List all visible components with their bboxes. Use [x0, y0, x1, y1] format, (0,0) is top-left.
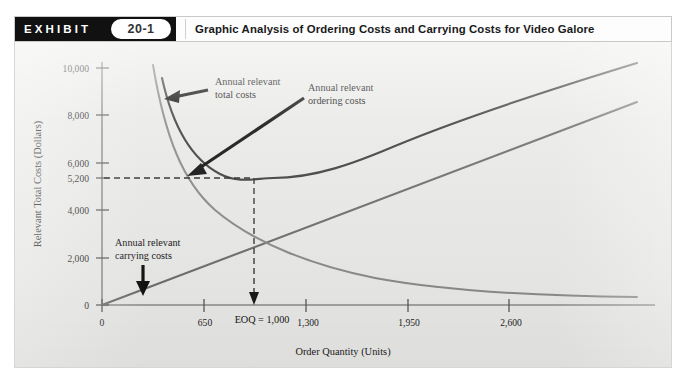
annotation-total-costs-line2: total costs	[215, 89, 256, 100]
y-tick-label-2000: 2,000	[67, 253, 89, 264]
y-axis-tick-labels: 10,000 8,000 6,000 5,200 4,000 2,000 0	[63, 63, 90, 311]
x-tick-label-1300: 1,300	[297, 317, 319, 328]
exhibit-label: EXHIBIT	[24, 23, 91, 35]
annotation-total-costs: Annual relevant total costs	[164, 76, 281, 103]
y-tick-label-10000: 10,000	[63, 63, 90, 74]
annotation-total-costs-line1: Annual relevant	[215, 76, 281, 87]
chart-axes	[102, 62, 655, 305]
exhibit-title: Graphic Analysis of Ordering Costs and C…	[195, 17, 594, 41]
annotation-ordering-costs-line2: ordering costs	[308, 95, 365, 106]
x-axis-title: Order Quantity (Units)	[295, 346, 390, 358]
exhibit-header: EXHIBIT 20-1 Graphic Analysis of Orderin…	[14, 16, 672, 42]
x-tick-label-0: 0	[100, 317, 105, 328]
x-tick-label-2600: 2,600	[500, 317, 522, 328]
annotation-ordering-costs-arrow-shaft	[198, 98, 304, 169]
annotation-ordering-costs-line1: Annual relevant	[308, 82, 374, 93]
carrying-costs-line	[102, 102, 637, 305]
annotation-carrying-costs-line1: Annual relevant	[115, 237, 181, 248]
x-tick-label-650: 650	[198, 317, 213, 328]
x-axis-tick-labels: 0 650 1,300 1,950 2,600	[100, 317, 522, 328]
exhibit-number: 20-1	[127, 22, 154, 36]
exhibit-number-pill: 20-1	[111, 19, 171, 39]
exhibit-page: EXHIBIT 20-1 Graphic Analysis of Orderin…	[0, 0, 684, 379]
eoq-arrowhead-icon	[249, 292, 259, 305]
header-divider	[185, 19, 186, 39]
eoq-chart: 10,000 8,000 6,000 5,200 4,000 2,000 0 0…	[15, 42, 671, 366]
y-axis-title: Relevant Total Costs (Dollars)	[32, 121, 44, 247]
y-tick-label-0: 0	[84, 300, 89, 311]
eoq-label: EOQ = 1,000	[235, 314, 290, 325]
y-tick-label-8000: 8,000	[67, 110, 89, 121]
y-tick-label-6000: 6,000	[67, 158, 89, 169]
y-tick-label-5200: 5,200	[67, 173, 89, 184]
figure-body: 10,000 8,000 6,000 5,200 4,000 2,000 0 0…	[14, 42, 672, 368]
y-tick-label-4000: 4,000	[67, 205, 89, 216]
x-tick-label-1950: 1,950	[398, 317, 420, 328]
exhibit-tag: EXHIBIT 20-1	[15, 17, 176, 41]
annotation-carrying-costs-line2: carrying costs	[115, 250, 172, 261]
